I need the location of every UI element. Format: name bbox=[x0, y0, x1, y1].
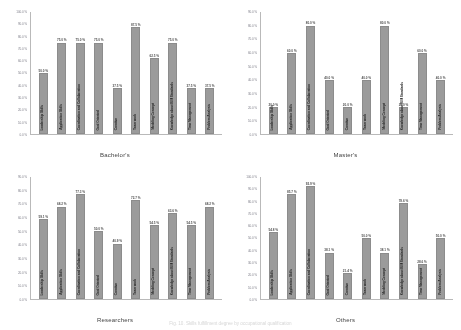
bar-category-label: Leadership Skills bbox=[272, 270, 275, 295]
y-tick-label: 70.0 % bbox=[248, 38, 257, 41]
bar[interactable]: 50.0 %Team work bbox=[362, 238, 371, 299]
y-tick-label: 60.0 % bbox=[18, 60, 27, 63]
bar[interactable]: 37.5 %Creative bbox=[113, 88, 122, 134]
bar[interactable]: 20.0 %Leadership Skills bbox=[269, 107, 278, 134]
plot-area-researchers: 0.0 %10.0 %20.0 %30.0 %40.0 %50.0 %60.0 … bbox=[0, 165, 230, 330]
bar[interactable]: 40.0 %Goal Oriented bbox=[325, 80, 334, 134]
y-tick-label: 40.0 % bbox=[18, 84, 27, 87]
bar[interactable]: 54.5 %Time Management bbox=[187, 225, 196, 299]
bar-slot: 60.0 %Application Skills bbox=[283, 12, 302, 134]
bar-slot: 37.5 %Creative bbox=[108, 12, 127, 134]
bar[interactable]: 50.0 %Problem Analysis bbox=[436, 238, 445, 299]
bar-slot: 50.0 %Goal Oriented bbox=[90, 177, 109, 299]
bar-value-label: 38.1 % bbox=[324, 249, 334, 252]
y-tick-label: 0.0 % bbox=[20, 133, 27, 136]
bar-category-label: Application Skills bbox=[60, 269, 63, 295]
bar[interactable]: 80.0 %Coordination and Collaboration bbox=[306, 26, 315, 134]
bar[interactable]: 68.2 %Problem Analysis bbox=[205, 207, 214, 299]
bar-slot: 40.0 %Goal Oriented bbox=[320, 12, 339, 134]
bar-slot: 37.5 %Time Management bbox=[182, 12, 201, 134]
bar-value-label: 75.0 % bbox=[168, 39, 178, 42]
bar-category-label: Coordination and Collaboration bbox=[79, 249, 82, 295]
y-tick-label: 90.0 % bbox=[18, 175, 27, 178]
bars-researchers: 59.1 %Leadership Skills68.2 %Application… bbox=[31, 177, 222, 299]
bar[interactable]: 80.0 %Modeling Concept bbox=[380, 26, 389, 134]
y-axis-ticks-others: 0.0 %10.0 %20.0 %30.0 %40.0 %50.0 %60.0 … bbox=[230, 177, 259, 300]
bar[interactable]: 85.7 %Application Skills bbox=[287, 194, 296, 299]
bar-slot: 38.1 %Goal Oriented bbox=[320, 177, 339, 299]
plot-area-others: 0.0 %10.0 %20.0 %30.0 %40.0 %50.0 %60.0 … bbox=[230, 165, 461, 330]
bar-value-label: 40.9 % bbox=[112, 240, 122, 243]
y-tick-label: 0.0 % bbox=[250, 133, 257, 136]
bar[interactable]: 37.5 %Time Management bbox=[187, 88, 196, 134]
bar-value-label: 77.3 % bbox=[75, 191, 85, 194]
bar[interactable]: 75.0 %Application Skills bbox=[57, 43, 66, 135]
bar[interactable]: 20.0 %Knowledge about BIM Standards bbox=[399, 107, 408, 134]
bar[interactable]: 62.5 %Modeling Concept bbox=[150, 58, 159, 134]
bar-slot: 68.2 %Application Skills bbox=[53, 177, 72, 299]
bar-slot: 85.7 %Application Skills bbox=[283, 177, 302, 299]
bar[interactable]: 40.0 %Team work bbox=[362, 80, 371, 134]
y-tick-label: 10.0 % bbox=[248, 120, 257, 123]
bar[interactable]: 40.0 %Problem Analysis bbox=[436, 80, 445, 134]
chart-grid: 0.0 %10.0 %20.0 %30.0 %40.0 %50.0 %60.0 … bbox=[0, 0, 461, 330]
bar[interactable]: 92.9 %Coordination and Collaboration bbox=[306, 186, 315, 299]
y-tick-label: 50.0 % bbox=[18, 72, 27, 75]
bar-slot: 40.9 %Creative bbox=[108, 177, 127, 299]
bar[interactable]: 50.0 %Leadership Skills bbox=[39, 73, 48, 134]
bar[interactable]: 50.0 %Goal Oriented bbox=[94, 231, 103, 299]
bar-category-label: Leadership Skills bbox=[42, 105, 45, 130]
y-tick-label: 20.0 % bbox=[248, 274, 257, 277]
bar-slot: 77.3 %Coordination and Collaboration bbox=[71, 177, 90, 299]
bar-category-label: Creative bbox=[346, 118, 349, 130]
bar[interactable]: 60.0 %Time Management bbox=[418, 53, 427, 134]
bar-category-label: Application Skills bbox=[60, 104, 63, 130]
bar[interactable]: 28.6 %Time Management bbox=[418, 264, 427, 299]
y-tick-label: 90.0 % bbox=[248, 188, 257, 191]
bar-category-label: Creative bbox=[346, 283, 349, 295]
bar[interactable]: 72.7 %Team work bbox=[131, 200, 140, 299]
bar[interactable]: 75.0 %Coordination and Collaboration bbox=[76, 43, 85, 135]
bar-value-label: 78.6 % bbox=[399, 200, 409, 203]
bar[interactable]: 63.6 %Knowledge about BIM Standards bbox=[168, 213, 177, 299]
bar-category-label: Creative bbox=[116, 118, 119, 130]
bar-slot: 62.5 %Modeling Concept bbox=[145, 12, 164, 134]
bar[interactable]: 77.3 %Coordination and Collaboration bbox=[76, 194, 85, 299]
bar-value-label: 59.1 % bbox=[38, 216, 48, 219]
bar[interactable]: 54.5 %Modeling Concept bbox=[150, 225, 159, 299]
bar[interactable]: 38.1 %Modeling Concept bbox=[380, 253, 389, 299]
y-tick-label: 40.0 % bbox=[248, 249, 257, 252]
bar-category-label: Coordination and Collaboration bbox=[309, 249, 312, 295]
bar[interactable]: 21.4 %Creative bbox=[343, 273, 352, 299]
y-tick-label: 80.0 % bbox=[18, 35, 27, 38]
bar-slot: 80.0 %Modeling Concept bbox=[376, 12, 395, 134]
bar[interactable]: 38.1 %Goal Oriented bbox=[325, 253, 334, 299]
bar-value-label: 87.5 % bbox=[131, 24, 141, 27]
bar-value-label: 62.5 % bbox=[149, 55, 159, 58]
bar-category-label: Coordination and Collaboration bbox=[79, 84, 82, 130]
bar[interactable]: 59.1 %Leadership Skills bbox=[39, 219, 48, 299]
bar[interactable]: 37.5 %Problem Analysis bbox=[205, 88, 214, 134]
bar[interactable]: 60.0 %Application Skills bbox=[287, 53, 296, 134]
y-tick-label: 10.0 % bbox=[18, 285, 27, 288]
bar-value-label: 54.5 % bbox=[186, 222, 196, 225]
bar-value-label: 38.1 % bbox=[380, 249, 390, 252]
bar-value-label: 80.0 % bbox=[380, 22, 390, 25]
bar-category-label: Goal Oriented bbox=[327, 275, 330, 295]
bar-value-label: 21.4 % bbox=[343, 270, 353, 273]
bar[interactable]: 75.0 %Goal Oriented bbox=[94, 43, 103, 135]
plot-area-masters: 0.0 %10.0 %20.0 %30.0 %40.0 %50.0 %60.0 … bbox=[230, 0, 461, 165]
bar-slot: 75.0 %Goal Oriented bbox=[90, 12, 109, 134]
bar-slot: 87.5 %Team work bbox=[127, 12, 146, 134]
bar[interactable]: 78.6 %Knowledge about BIM Standards bbox=[399, 203, 408, 299]
bar-category-label: Time Management bbox=[420, 268, 423, 295]
bar-value-label: 75.0 % bbox=[94, 39, 104, 42]
bar[interactable]: 40.9 %Creative bbox=[113, 244, 122, 299]
figure-caption: Fig. 10. Skills fulfillment degree by oc… bbox=[0, 321, 461, 330]
bar[interactable]: 87.5 %Team work bbox=[131, 27, 140, 134]
bar[interactable]: 54.8 %Leadership Skills bbox=[269, 232, 278, 299]
bar[interactable]: 68.2 %Application Skills bbox=[57, 207, 66, 299]
bar[interactable]: 20.0 %Creative bbox=[343, 107, 352, 134]
bar[interactable]: 75.0 %Knowledge about BIM Standards bbox=[168, 43, 177, 135]
bar-slot: 38.1 %Modeling Concept bbox=[376, 177, 395, 299]
